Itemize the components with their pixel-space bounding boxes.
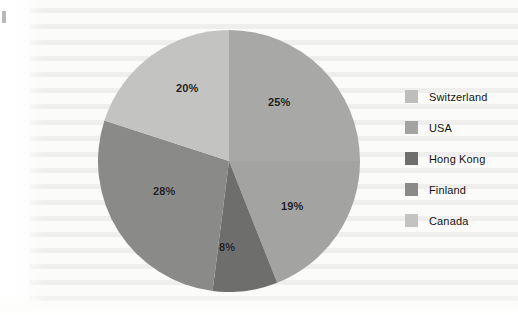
pie-slice-switzerland[interactable] — [229, 30, 360, 161]
legend-swatch-usa — [405, 121, 418, 134]
legend-swatch-finland — [405, 183, 418, 196]
legend-label-finland: Finland — [429, 184, 466, 196]
legend-item-canada[interactable]: Canada — [405, 205, 513, 236]
legend-item-finland[interactable]: Finland — [405, 174, 513, 205]
legend-item-switzerland[interactable]: Switzerland — [405, 81, 513, 112]
slice-value-label-canada: 20% — [176, 82, 198, 94]
legend-label-usa: USA — [429, 122, 452, 134]
legend-item-hong-kong[interactable]: Hong Kong — [405, 143, 513, 174]
legend-label-canada: Canada — [429, 215, 468, 227]
figure-page: 25%19%8%28%20% SwitzerlandUSAHong KongFi… — [0, 0, 518, 315]
legend-label-switzerland: Switzerland — [429, 91, 488, 103]
legend-swatch-canada — [405, 214, 418, 227]
slice-value-label-switzerland: 25% — [268, 96, 290, 108]
legend-label-hong-kong: Hong Kong — [429, 153, 485, 165]
slice-value-label-finland: 28% — [153, 185, 175, 197]
chart-legend: SwitzerlandUSAHong KongFinlandCanada — [405, 81, 513, 236]
legend-item-usa[interactable]: USA — [405, 112, 513, 143]
slice-value-label-hong-kong: 8% — [219, 241, 235, 253]
slice-value-label-usa: 19% — [281, 200, 303, 212]
legend-swatch-hong-kong — [405, 152, 418, 165]
legend-swatch-switzerland — [405, 90, 418, 103]
